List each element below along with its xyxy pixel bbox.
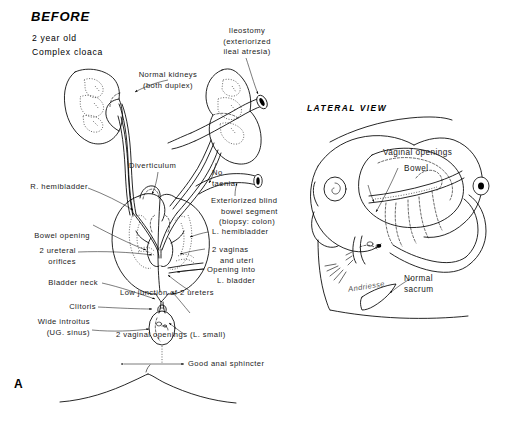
label-bladder-neck: Bladder neck bbox=[20, 278, 98, 289]
label-bowel-lateral: Bowel bbox=[404, 164, 429, 175]
label-opening-into-bladder: Opening into L. bladder bbox=[207, 265, 255, 286]
figure-canvas: BEFORE 2 year old Complex cloaca LATERAL… bbox=[0, 0, 512, 428]
label-wide-introitus: Wide introitus (UG. sinus) bbox=[14, 317, 90, 338]
label-blind-bowel-segment: Exteriorized blind bowel segment (biopsy… bbox=[211, 196, 278, 228]
label-diverticulum: Diverticulum bbox=[129, 161, 176, 172]
perineal-hatching bbox=[325, 264, 346, 283]
label-ileostomy: Ileostomy (exteriorized ileal atresia) bbox=[204, 26, 290, 58]
label-bowel-opening: Bowel opening bbox=[12, 231, 90, 242]
anal-sphincter-contour bbox=[60, 365, 236, 403]
label-normal-sacrum: Normal sacrum bbox=[404, 274, 434, 295]
label-low-junction-ureters: Low junction of 2 ureters bbox=[120, 288, 214, 299]
label-two-vaginas-uteri: 2 vaginas and uteri bbox=[212, 245, 254, 266]
ileostomy-stoma bbox=[168, 93, 269, 149]
label-normal-kidneys: Normal kidneys (both duplex) bbox=[122, 70, 214, 91]
label-no-taenia: No taenia bbox=[212, 168, 235, 189]
label-vaginal-openings-lateral: Vaginal openings bbox=[383, 148, 452, 159]
right-kidney bbox=[64, 69, 136, 216]
label-l-hemibladder: L. hemibladder bbox=[212, 227, 269, 238]
label-vaginal-openings-anterior: 2 vaginal openings (L. small) bbox=[116, 330, 226, 341]
umbilicus bbox=[324, 177, 346, 201]
label-good-anal-sphincter: Good anal sphincter bbox=[188, 359, 265, 370]
label-ureteral-orifices: 2 ureteral orifices bbox=[2, 246, 76, 267]
label-r-hemibladder: R. hemibladder bbox=[8, 182, 88, 193]
label-clitoris: Clitoris bbox=[40, 302, 96, 313]
